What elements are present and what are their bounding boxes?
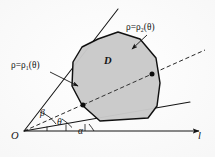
label-rho-inner: ρ=ρ1(θ) (11, 61, 40, 71)
polar-region-figure (0, 0, 215, 157)
label-rho-outer: ρ=ρ2(θ) (126, 23, 155, 33)
label-region-d: D (104, 56, 112, 67)
figure-container: ρ=ρ2(θ) ρ=ρ1(θ) D O l β θ α (0, 0, 215, 157)
label-rho-inner-arg: (θ) (29, 60, 40, 70)
label-angle-alpha: α (78, 126, 83, 136)
label-origin: O (11, 131, 19, 142)
label-rho-outer-lead: ρ=ρ (126, 22, 141, 32)
label-rho-inner-lead: ρ=ρ (11, 60, 26, 70)
label-rho-outer-arg: (θ) (144, 22, 155, 32)
label-angle-theta: θ (57, 117, 62, 127)
label-angle-beta: β (40, 108, 45, 118)
label-axis-l: l (198, 131, 201, 142)
intersection-point-rho1 (81, 103, 86, 108)
intersection-point-rho2 (150, 72, 155, 77)
